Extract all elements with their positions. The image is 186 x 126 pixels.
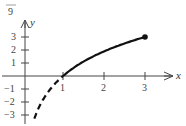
chart: 9 y x 3 2 1 −1 −2 −3 1 2 3: [0, 0, 186, 126]
x-axis-label: x: [175, 69, 181, 81]
y-axis-arrow-icon: [21, 20, 29, 28]
x-tick-label: 1: [60, 82, 65, 93]
y-tick-label: −2: [4, 96, 15, 107]
x-axis-arrow-icon: [164, 72, 173, 80]
y-tick-label: 3: [11, 31, 16, 42]
y-tick-label: −3: [4, 109, 15, 120]
endpoint-marker: [142, 34, 148, 40]
header-label: 9: [8, 6, 13, 17]
dashed-curve: [34, 76, 63, 119]
y-tick-label: 2: [11, 44, 16, 55]
y-axis-label: y: [29, 16, 35, 28]
x-tick-label: 3: [142, 82, 147, 93]
solid-curve: [63, 37, 145, 76]
x-tick-label: 2: [101, 82, 106, 93]
y-tick-label: 1: [11, 57, 16, 68]
y-tick-label: −1: [4, 83, 15, 94]
